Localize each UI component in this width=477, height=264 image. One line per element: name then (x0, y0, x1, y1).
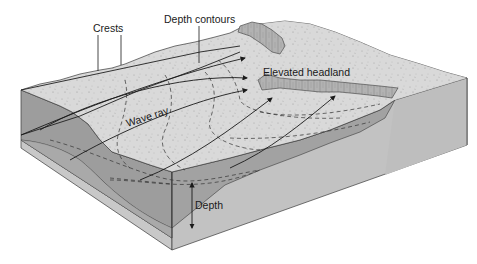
label-elevated-headland: Elevated headland (263, 67, 350, 78)
label-depth: Depth (195, 200, 223, 211)
block-diagram-svg (0, 0, 477, 264)
wave-refraction-diagram: Crests Depth contours Elevated headland … (0, 0, 477, 264)
label-depth-contours: Depth contours (164, 14, 235, 25)
label-crests: Crests (93, 23, 123, 34)
